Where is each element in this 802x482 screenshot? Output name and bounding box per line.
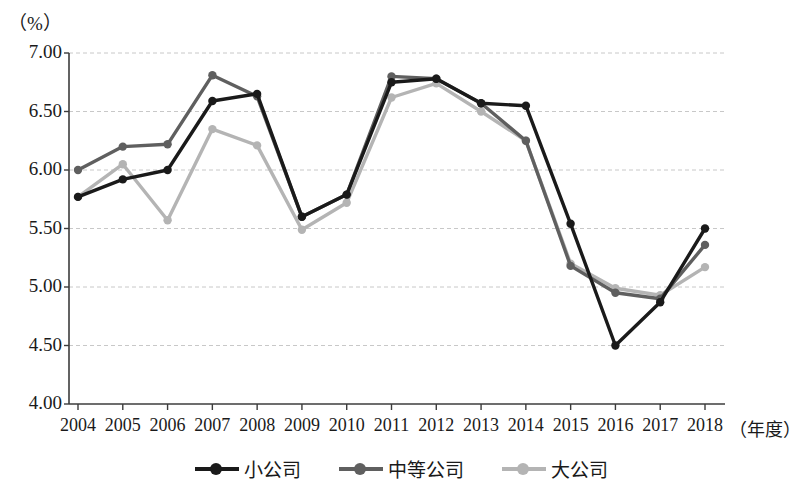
legend-item[interactable]: 大公司 xyxy=(502,455,608,482)
y-axis-tick-label: 7.00 xyxy=(4,41,62,63)
data-point-marker xyxy=(656,298,664,306)
y-axis-tick-label: 5.00 xyxy=(4,275,62,297)
data-point-marker xyxy=(432,75,440,83)
data-point-marker xyxy=(387,78,395,86)
x-axis-tick-label: 2018 xyxy=(678,415,732,436)
data-point-marker xyxy=(119,142,127,150)
data-point-marker xyxy=(477,107,485,115)
legend-label: 小公司 xyxy=(244,455,301,482)
data-point-marker xyxy=(343,199,351,207)
data-point-marker xyxy=(208,97,216,105)
data-point-marker xyxy=(208,125,216,133)
legend-label: 大公司 xyxy=(551,455,608,482)
legend-marker-icon xyxy=(339,462,383,476)
data-point-marker xyxy=(701,241,709,249)
legend-marker-icon xyxy=(195,462,239,476)
data-point-marker xyxy=(74,193,82,201)
data-point-marker xyxy=(119,175,127,183)
legend-label: 中等公司 xyxy=(388,455,464,482)
data-point-marker xyxy=(208,71,216,79)
data-point-marker xyxy=(298,213,306,221)
series-line xyxy=(78,83,705,295)
y-axis-tick-label: 6.50 xyxy=(4,100,62,122)
legend-item[interactable]: 中等公司 xyxy=(339,455,464,482)
data-point-marker xyxy=(477,99,485,107)
legend-marker-icon xyxy=(502,462,546,476)
y-axis-tick-label: 4.00 xyxy=(4,392,62,414)
data-point-marker xyxy=(522,137,530,145)
legend-dot-icon xyxy=(354,463,366,475)
chart-legend: 小公司中等公司大公司 xyxy=(0,455,802,482)
data-point-marker xyxy=(163,166,171,174)
series-line xyxy=(78,75,705,299)
line-chart: （%） 7.006.506.005.505.004.504.00 2004200… xyxy=(0,0,802,482)
data-point-marker xyxy=(253,90,261,98)
data-point-marker xyxy=(611,341,619,349)
series-group xyxy=(74,71,709,350)
data-point-marker xyxy=(298,226,306,234)
data-point-marker xyxy=(163,216,171,224)
legend-item[interactable]: 小公司 xyxy=(195,455,301,482)
data-point-marker xyxy=(74,166,82,174)
x-axis-title: （年度） xyxy=(729,415,801,441)
data-point-marker xyxy=(522,102,530,110)
data-point-marker xyxy=(387,93,395,101)
axes-group xyxy=(64,53,725,410)
data-point-marker xyxy=(701,263,709,271)
y-axis-tick-label: 6.00 xyxy=(4,158,62,180)
data-point-marker xyxy=(566,262,574,270)
legend-dot-icon xyxy=(210,463,222,475)
data-point-marker xyxy=(701,224,709,232)
data-point-marker xyxy=(611,289,619,297)
legend-dot-icon xyxy=(517,463,529,475)
plot-area-svg xyxy=(0,0,802,482)
data-point-marker xyxy=(119,160,127,168)
data-point-marker xyxy=(343,190,351,198)
y-axis-tick-label: 4.50 xyxy=(4,334,62,356)
data-point-marker xyxy=(253,141,261,149)
data-point-marker xyxy=(566,220,574,228)
data-point-marker xyxy=(163,140,171,148)
y-axis-tick-label: 5.50 xyxy=(4,217,62,239)
